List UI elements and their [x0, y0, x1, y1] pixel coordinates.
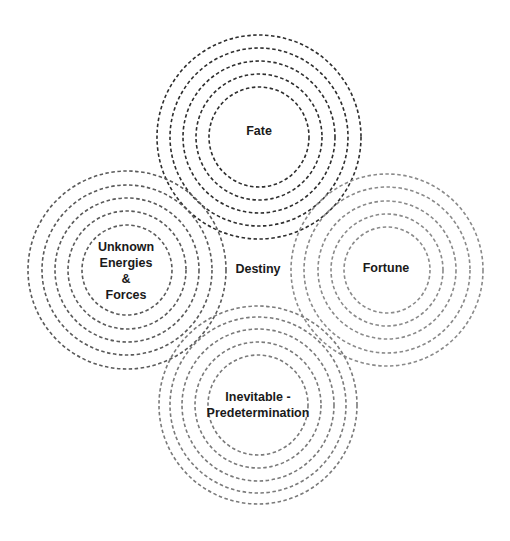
inevitable-line-1: Inevitable -: [207, 389, 310, 405]
label-unknown-energies-forces: Unknown Energies & Forces: [98, 239, 154, 303]
label-inevitable-predetermination: Inevitable - Predetermination: [207, 389, 310, 421]
label-fortune: Fortune: [363, 260, 410, 276]
label-fate: Fate: [246, 123, 272, 139]
fortune-text: Fortune: [363, 261, 410, 275]
unknown-line-3: &: [98, 271, 154, 287]
label-destiny: Destiny: [235, 261, 280, 277]
destiny-text: Destiny: [235, 262, 280, 276]
fate-text: Fate: [246, 124, 272, 138]
unknown-line-2: Energies: [98, 255, 154, 271]
unknown-line-1: Unknown: [98, 239, 154, 255]
inevitable-line-2: Predetermination: [207, 405, 310, 421]
unknown-line-4: Forces: [98, 287, 154, 303]
